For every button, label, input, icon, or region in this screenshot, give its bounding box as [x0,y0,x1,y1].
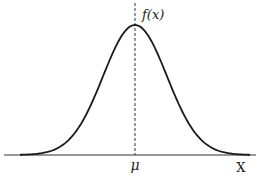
x-axis-label: X [236,160,246,175]
mean-label: μ [130,157,139,173]
normal-distribution-chart: f(x) μ X [0,0,268,182]
curve-label: f(x) [141,7,164,22]
